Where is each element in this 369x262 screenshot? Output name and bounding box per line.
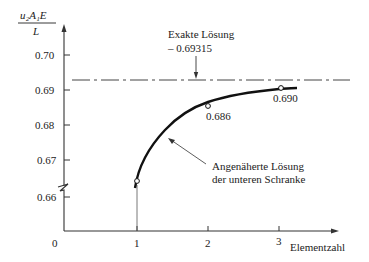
pointer-arrow-icon (194, 72, 198, 79)
axis-break-icon (58, 184, 68, 231)
exact-solution-value: – 0.69315 (167, 42, 213, 54)
y-tick-label: 0.68 (35, 119, 55, 131)
y-ticks (64, 55, 70, 197)
y-tick-label: 0.70 (35, 49, 55, 61)
y-tick-label: 0.66 (37, 191, 57, 203)
data-point (135, 179, 140, 184)
point-label: 0.686 (206, 110, 231, 122)
approx-solution-label: Angenäherte Lösung (212, 160, 304, 172)
x-axis-label: Elementzahl (290, 241, 345, 253)
x-tick-label: 0 (52, 237, 58, 249)
pointer-arrow-icon (168, 138, 175, 144)
x-tick-label: 2 (205, 237, 211, 249)
approx-solution-pointer (171, 140, 206, 164)
exact-solution-label: Exakte Lösung (168, 28, 235, 40)
y-axis-label-denominator: L (32, 25, 39, 37)
approx-solution-label-line2: der unteren Schranke (212, 173, 306, 185)
y-tick-label: 0.69 (35, 84, 55, 96)
y-axis-label-numerator: u₂A₁E (20, 9, 47, 21)
x-ticks (137, 226, 279, 231)
y-axis-arrow-icon (62, 24, 67, 32)
data-point (206, 104, 211, 109)
x-tick-label: 1 (134, 237, 140, 249)
point-label: 0.690 (273, 92, 298, 104)
x-tick-label: 3 (276, 235, 282, 247)
data-point (279, 86, 284, 91)
x-axis-arrow-icon (331, 229, 339, 234)
y-tick-label: 0.67 (37, 154, 57, 166)
chart: u₂A₁E L 0.70 0.69 0.68 0.67 0.66 0 1 2 3… (0, 0, 369, 262)
